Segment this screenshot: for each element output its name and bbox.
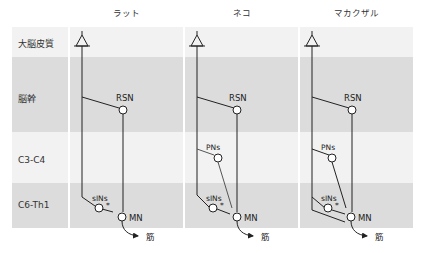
mn-neuron — [347, 213, 355, 221]
mn-label: MN — [358, 213, 372, 223]
pns-label: PNs — [206, 143, 220, 152]
rsn-label: RSN — [116, 93, 134, 103]
mn-label: MN — [129, 213, 143, 223]
mn-neuron — [233, 213, 241, 221]
sins-neuron — [95, 204, 103, 212]
mn-label: MN — [244, 213, 258, 223]
rsn-label: RSN — [229, 93, 247, 103]
muscle-label: 筋 — [261, 232, 270, 242]
star-label: * — [106, 201, 110, 210]
rsn-neuron — [348, 106, 356, 114]
pyramidal-neuron-icon — [189, 31, 205, 46]
star-label: * — [220, 201, 224, 210]
rsn-label: RSN — [344, 93, 362, 103]
muscle-label: 筋 — [375, 232, 384, 242]
pyramidal-neuron-icon — [74, 31, 90, 46]
rsn-neuron — [119, 106, 127, 114]
pns-neuron — [214, 154, 222, 162]
pns-neuron — [328, 154, 336, 162]
sins-neuron — [209, 204, 217, 212]
pns-label: PNs — [321, 143, 335, 152]
rsn-neuron — [233, 106, 241, 114]
mn-neuron — [118, 213, 126, 221]
star-label: * — [335, 201, 339, 210]
pyramidal-neuron-icon — [304, 31, 320, 46]
muscle-label: 筋 — [146, 232, 155, 242]
circuit-diagram: RSN sINs * MN 筋 RSN PNs sINs * MN 筋 — [0, 0, 425, 253]
sins-neuron — [324, 204, 332, 212]
